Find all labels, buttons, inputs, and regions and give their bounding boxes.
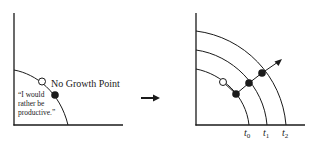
no-growth-point-open-circle (39, 78, 46, 85)
label-t2: t2 (282, 127, 289, 140)
quote-line-2: rather be (18, 99, 45, 108)
right-arrow-icon (141, 95, 160, 102)
quote-line-1: “I would (18, 90, 45, 99)
point-t2 (258, 69, 266, 77)
quote-line-3: productive.” (18, 108, 55, 117)
curve-t2 (196, 31, 286, 125)
label-t0: t0 (244, 127, 251, 140)
no-growth-point-label: No Growth Point (51, 78, 120, 89)
label-t1: t1 (263, 127, 270, 140)
left-panel: No Growth Point “I would rather be produ… (13, 13, 123, 126)
growth-direction-arrow-head (275, 59, 283, 66)
point-t0 (232, 90, 240, 98)
right-panel: t0 t1 t2 (195, 13, 305, 140)
diagram-canvas: No Growth Point “I would rather be produ… (0, 0, 317, 141)
curve-t0 (196, 69, 249, 125)
productive-point-filled-circle (51, 91, 59, 99)
point-t1 (245, 79, 253, 87)
start-open-circle (220, 79, 227, 86)
